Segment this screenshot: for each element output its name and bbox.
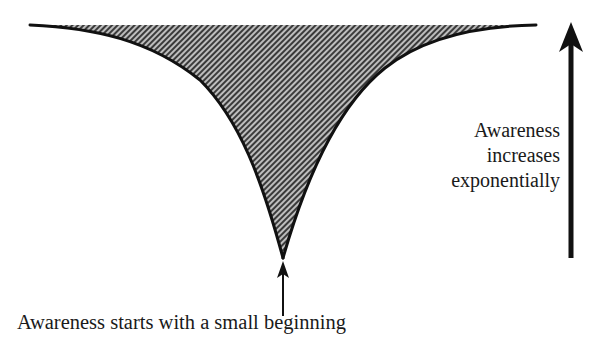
awareness-increases-label: Awareness increases exponentially bbox=[451, 118, 560, 193]
label-line-3: exponentially bbox=[451, 168, 560, 193]
label-line-2: increases bbox=[451, 143, 560, 168]
growth-arrow-icon bbox=[559, 22, 583, 258]
start-arrow-icon bbox=[277, 261, 289, 316]
small-beginning-label: Awareness starts with a small beginning bbox=[17, 309, 346, 335]
label-line-1: Awareness bbox=[451, 118, 560, 143]
